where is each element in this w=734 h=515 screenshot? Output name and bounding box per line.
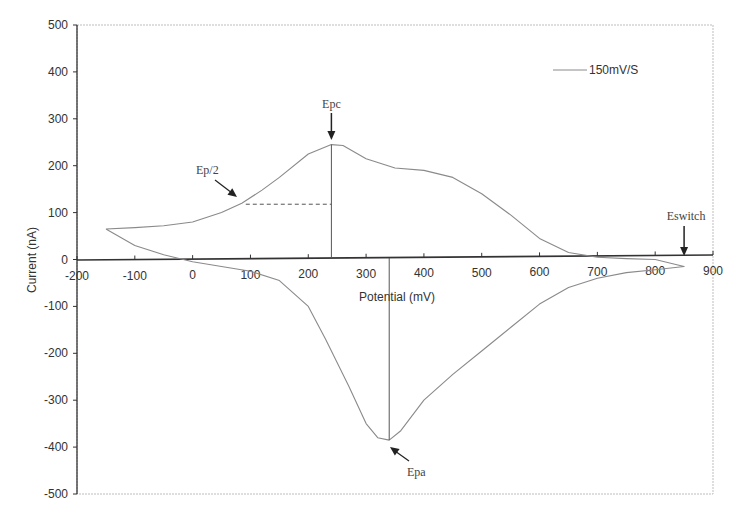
y-tick-label: -100: [44, 299, 68, 313]
y-axis-title: Current (nA): [25, 227, 39, 293]
arrow-head-icon: [390, 447, 400, 456]
ep2-arrow: [215, 180, 232, 193]
x-tick-label: 600: [530, 265, 550, 279]
y-tick-label: -500: [44, 487, 68, 501]
x-tick-label: -100: [123, 269, 147, 283]
y-axis-ticks: 5004003002001000-100-200-300-400-500: [44, 18, 77, 501]
x-tick-label: 200: [298, 267, 318, 281]
y-tick-label: 400: [48, 65, 68, 79]
x-tick-label: -200: [65, 269, 89, 283]
x-tick-label: 900: [703, 264, 723, 278]
x-axis-title: Potential (mV): [359, 290, 435, 304]
legend: 150mV/S: [553, 63, 638, 77]
y-tick-label: -300: [44, 393, 68, 407]
x-tick-label: 800: [645, 264, 665, 278]
epa-label: Epa: [407, 465, 426, 479]
epc-label: Epc: [322, 97, 341, 111]
x-axis: [77, 255, 713, 260]
y-tick-label: 0: [61, 253, 68, 267]
y-tick-label: -400: [44, 440, 68, 454]
annotations: EpcEp/2EpaEswitch: [196, 97, 705, 479]
x-tick-label: 300: [356, 267, 376, 281]
x-tick-label: 400: [414, 266, 434, 280]
ep2-label: Ep/2: [196, 163, 219, 177]
arrow-head-icon: [327, 131, 335, 140]
eswitch-label: Eswitch: [667, 209, 706, 223]
y-tick-label: 300: [48, 112, 68, 126]
y-tick-label: -200: [44, 346, 68, 360]
x-tick-label: 500: [472, 266, 492, 280]
y-tick-label: 200: [48, 159, 68, 173]
arrow-head-icon: [227, 188, 237, 197]
x-tick-label: 0: [189, 268, 196, 282]
cyclic-voltammogram-chart: 5004003002001000-100-200-300-400-500 -20…: [0, 0, 734, 515]
y-tick-label: 500: [48, 18, 68, 32]
legend-label: 150mV/S: [589, 63, 638, 77]
y-tick-label: 100: [48, 206, 68, 220]
